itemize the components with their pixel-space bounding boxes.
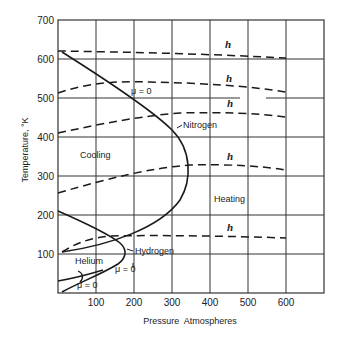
y-tick: 200: [37, 210, 54, 221]
y-tick: 300: [37, 171, 54, 182]
y-tick: 500: [37, 93, 54, 104]
x-tick: 200: [126, 297, 143, 308]
y-tick: 600: [37, 54, 54, 65]
hydrogen-label: Hydrogen: [135, 246, 174, 256]
nitrogen-label: Nitrogen: [183, 120, 217, 130]
mu-zero-nitrogen-label: μ = 0: [131, 86, 151, 96]
x-axis-ticks: 100 200 300 400 500 600: [88, 297, 295, 308]
y-tick: 400: [37, 132, 54, 143]
h-label: h: [225, 38, 231, 50]
h-label: h: [227, 150, 233, 162]
y-axis-title: Temperature, °K: [20, 117, 30, 182]
hydrogen-leader: [127, 249, 133, 251]
y-tick: 700: [37, 15, 54, 26]
y-tick: 100: [37, 249, 54, 260]
heating-label: Heating: [214, 194, 245, 204]
annotations: μ = 0 Nitrogen Cooling Heating Hydrogen …: [75, 86, 245, 290]
y-axis-ticks: 100 200 300 400 500 600 700: [37, 15, 54, 260]
h-label: h: [227, 221, 233, 233]
helium-label: Helium: [75, 256, 103, 266]
mu-zero-hydrogen-label: μ = 0: [115, 264, 135, 274]
x-tick: 300: [164, 297, 181, 308]
cooling-label: Cooling: [80, 150, 111, 160]
inversion-curve-chart: 100 200 300 400 500 600 700 100 200 300 …: [0, 0, 339, 337]
x-tick: 600: [278, 297, 295, 308]
h-label: h: [227, 97, 233, 109]
nitrogen-leader: [177, 125, 182, 128]
x-tick: 500: [240, 297, 257, 308]
x-tick: 100: [88, 297, 105, 308]
x-axis-title: Pressure Atmospheres: [143, 316, 237, 326]
x-tick: 400: [202, 297, 219, 308]
h-label: h: [226, 72, 232, 84]
mu-zero-helium-label: μ = 0: [77, 280, 97, 290]
